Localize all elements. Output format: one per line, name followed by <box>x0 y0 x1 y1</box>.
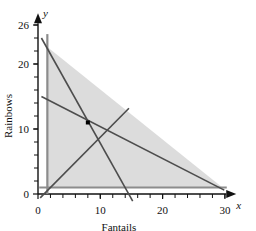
linear-programming-plot: 01020300102026yxFantailsRainbows <box>0 0 256 231</box>
x-tick-label: 0 <box>35 204 41 216</box>
y-tick-label: 26 <box>18 19 30 31</box>
x-tick-label: 20 <box>157 204 169 216</box>
y-tick-label: 0 <box>24 188 30 200</box>
y-axis-letter: y <box>42 7 48 19</box>
y-tick-label: 10 <box>18 123 30 135</box>
chart-container: 01020300102026yxFantailsRainbows <box>0 0 256 231</box>
y-axis-title: Rainbows <box>2 94 14 138</box>
x-tick-label: 10 <box>95 204 107 216</box>
y-tick-label: 20 <box>18 58 30 70</box>
x-axis-title: Fantails <box>102 221 137 231</box>
shaded-feasible-region <box>47 47 222 187</box>
y-axis-arrow <box>34 13 42 23</box>
x-axis-letter: x <box>235 199 241 211</box>
x-tick-label: 30 <box>219 204 231 216</box>
x-axis-arrow <box>226 190 236 198</box>
optimal-vertex <box>86 121 90 125</box>
